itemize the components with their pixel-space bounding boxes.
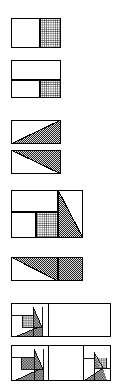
figure-3	[11, 120, 61, 144]
checker-sub-square	[21, 357, 34, 369]
white-top-band	[11, 60, 61, 80]
figure-1	[11, 18, 61, 48]
grid-lower-right	[40, 80, 61, 98]
figure-4	[11, 150, 61, 174]
white-lower-left	[11, 80, 40, 98]
grid-sub-square	[22, 315, 33, 327]
white-left-block	[11, 18, 40, 48]
grid-centre-square	[36, 212, 58, 238]
figure-5	[11, 190, 83, 238]
figure-8	[11, 345, 111, 381]
figure-7	[11, 303, 111, 337]
figure-sheet	[0, 0, 122, 389]
figure-6	[11, 257, 83, 281]
checker-right-block	[58, 257, 83, 281]
figure-2	[11, 60, 61, 98]
grid-right-block	[40, 18, 61, 48]
